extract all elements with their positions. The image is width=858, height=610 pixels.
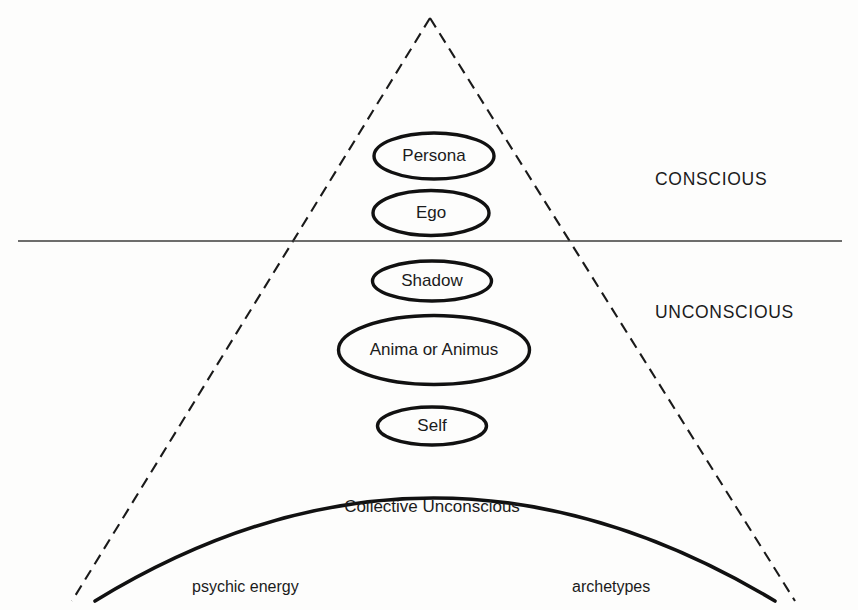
ellipse-label-persona: Persona [402,146,466,165]
ellipse-label-shadow: Shadow [401,271,463,290]
region-label-unconscious: UNCONSCIOUS [655,302,794,322]
footer-label-psychic-energy: psychic energy [192,578,299,595]
psyche-diagram-canvas: Persona Ego Shadow Anima or Animus Self … [0,0,858,610]
footer-label-archetypes: archetypes [572,578,650,595]
region-label-conscious: CONSCIOUS [655,169,767,189]
ellipse-label-anima-animus: Anima or Animus [370,340,499,359]
collective-unconscious-label: Collective Unconscious [344,497,520,516]
ellipse-label-self: Self [417,416,447,435]
ellipse-group: Persona Ego Shadow Anima or Animus Self [339,133,530,445]
ellipse-label-ego: Ego [416,203,446,222]
psyche-diagram: Persona Ego Shadow Anima or Animus Self … [0,0,858,610]
